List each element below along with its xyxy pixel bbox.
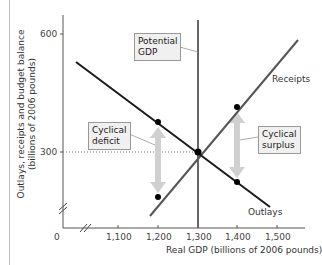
point-outlays-1400: [234, 179, 240, 185]
potential-gdp-label-box: Potential GDP: [134, 33, 181, 61]
cyclical-deficit-label-line2: deficit: [92, 136, 127, 147]
y-axis-title-line1: Outlays, receipts and budget balance: [16, 30, 27, 199]
cyclical-deficit-label-line1: Cyclical: [92, 125, 127, 136]
cyclical-surplus-label-line2: surplus: [262, 140, 297, 151]
x-tick-label-0: 0: [54, 233, 60, 242]
x-tick-label-1500: 1,500: [265, 233, 291, 242]
y-axis-title-line2: (billions of 2006 pounds): [27, 30, 38, 199]
y-tick-label-600: 600: [40, 30, 57, 39]
surplus-leader: [240, 137, 258, 140]
point-receipts-1200: [155, 194, 161, 200]
y-axis-title: Outlays, receipts and budget balance (bi…: [12, 0, 42, 228]
cyclical-deficit-arrow: [150, 127, 166, 193]
x-tick-label-1200: 1,200: [146, 233, 172, 242]
point-receipts-1400: [234, 104, 240, 110]
point-equilibrium: [195, 149, 202, 156]
receipts-label: Receipts: [272, 75, 310, 84]
x-tick-label-1100: 1,100: [106, 233, 132, 242]
potential-gdp-label-line1: Potential: [138, 36, 177, 47]
y-tick-label-300: 300: [40, 148, 57, 157]
potential-gdp-label-line2: GDP: [138, 47, 177, 58]
cyclical-surplus-arrow: [229, 112, 245, 178]
cyclical-surplus-label-box: Cyclical surplus: [258, 126, 301, 154]
deficit-leader: [127, 133, 155, 145]
cyclical-deficit-label-box: Cyclical deficit: [88, 122, 131, 150]
cyclical-surplus-label-line1: Cyclical: [262, 129, 297, 140]
x-tick-label-1300: 1,300: [186, 233, 212, 242]
x-tick-label-1400: 1,400: [225, 233, 251, 242]
point-outlays-1200: [155, 119, 161, 125]
x-axis-title: Real GDP (billions of 2006 pounds): [166, 246, 322, 255]
outlays-label: Outlays: [248, 208, 282, 217]
